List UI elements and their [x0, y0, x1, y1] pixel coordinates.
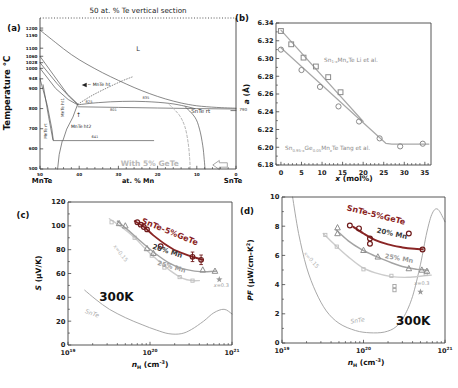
svg-text:x=0.3: x=0.3	[213, 282, 229, 288]
svg-text:60: 60	[56, 270, 66, 278]
svg-text:25% Mn: 25% Mn	[384, 252, 414, 265]
panel-c-chart: 101910201021120100806040200(c)S (μV/K)nH…	[17, 198, 240, 370]
svg-text:~ MnTe ht: ~ MnTe ht	[87, 82, 110, 87]
svg-text:2: 2	[275, 310, 280, 318]
svg-text:10: 10	[270, 193, 280, 201]
svg-text:35: 35	[420, 169, 430, 177]
svg-text:nH (cm-3): nH (cm-3)	[348, 357, 385, 368]
svg-text:↑: ↑	[76, 111, 81, 118]
series-fan-1	[40, 56, 78, 104]
svg-text:300K: 300K	[396, 314, 431, 328]
svg-text:x=0.3: x=0.3	[413, 280, 429, 286]
svg-text:5: 5	[299, 169, 304, 177]
svg-text:6.32: 6.32	[257, 37, 273, 45]
svg-text:790: 790	[239, 107, 247, 112]
svg-text:0: 0	[279, 169, 284, 177]
svg-text:20: 20	[155, 172, 161, 177]
svg-text:x=0.15: x=0.15	[112, 243, 130, 264]
svg-text:6.24: 6.24	[257, 108, 274, 116]
svg-text:835: 835	[142, 96, 149, 100]
svg-text:1060: 1060	[26, 54, 38, 59]
svg-text:Sn0.95-xGe0.05MnxTe Tang et al: Sn0.95-xGe0.05MnxTe Tang et al.	[285, 145, 370, 153]
svg-text:(c): (c)	[17, 210, 30, 220]
svg-text:Sn1-xMnxTe Li et al.: Sn1-xMnxTe Li et al.	[324, 57, 378, 65]
svg-text:6.18: 6.18	[257, 161, 274, 169]
svg-text:1200: 1200	[26, 26, 38, 31]
svg-text:641: 641	[91, 135, 98, 139]
svg-text:at. % Mn: at. % Mn	[122, 177, 154, 185]
svg-text:MnTe ht1: MnTe ht1	[60, 98, 65, 117]
svg-text:6.22: 6.22	[257, 126, 273, 134]
svg-text:6.30: 6.30	[257, 55, 274, 63]
svg-text:6: 6	[275, 252, 280, 260]
svg-text:PF (μW/cm-K2): PF (μW/cm-K2)	[245, 239, 255, 300]
svg-text:MnTe rt: MnTe rt	[43, 123, 48, 139]
svg-text:Temperature °C: Temperature °C	[2, 56, 12, 131]
svg-text:6.20: 6.20	[257, 144, 274, 152]
svg-text:(a): (a)	[7, 23, 21, 33]
svg-text:6.28: 6.28	[257, 73, 274, 81]
svg-text:1028: 1028	[26, 60, 38, 65]
svg-text:948: 948	[29, 76, 38, 81]
svg-text:4: 4	[275, 281, 280, 289]
panel-d-chart: 1019102010211086420(d)PF (μW/cm-K2)nH (c…	[240, 193, 452, 368]
svg-text:nH (cm-3): nH (cm-3)	[132, 359, 169, 370]
svg-text:300K: 300K	[99, 290, 134, 304]
svg-text:SnTe: SnTe	[224, 177, 243, 185]
svg-text:1190: 1190	[26, 33, 38, 38]
svg-text:30: 30	[115, 172, 121, 177]
svg-text:100: 100	[51, 222, 65, 230]
svg-text:40: 40	[76, 172, 82, 177]
panel-a-chart: 5040302010012001190110010601028100094890…	[2, 6, 247, 185]
svg-text:(b): (b)	[235, 13, 249, 23]
svg-text:20% Mn: 20% Mn	[376, 227, 408, 241]
svg-text:(d): (d)	[240, 206, 254, 216]
series-solvus	[185, 107, 205, 169]
svg-text:10: 10	[194, 172, 200, 177]
svg-text:80: 80	[56, 246, 66, 254]
svg-text:a (Å): a (Å)	[242, 84, 251, 104]
svg-text:600: 600	[29, 146, 38, 151]
figure: 5040302010012001190110010601028100094890…	[0, 0, 458, 388]
svg-text:1020: 1020	[142, 348, 157, 357]
four-panel-figure: 5040302010012001190110010601028100094890…	[0, 0, 458, 388]
svg-text:900: 900	[29, 86, 38, 91]
svg-text:800: 800	[29, 106, 38, 111]
panel-b-chart: 051015202530356.346.326.306.286.266.246.…	[235, 13, 431, 183]
svg-text:6.34: 6.34	[257, 19, 274, 27]
svg-text:1100: 1100	[26, 46, 38, 51]
svg-text:30: 30	[400, 169, 410, 177]
svg-text:50 at. % Te vertical section: 50 at. % Te vertical section	[89, 6, 186, 15]
svg-text:SnTe: SnTe	[350, 316, 365, 325]
svg-text:1021: 1021	[437, 346, 452, 355]
svg-text:801: 801	[110, 108, 117, 112]
svg-text:With 5% GeTe: With 5% GeTe	[121, 159, 179, 168]
svg-text:10: 10	[318, 169, 328, 177]
series-mn25-curve	[336, 230, 428, 270]
svg-text:0: 0	[61, 341, 66, 349]
svg-text:1020: 1020	[356, 346, 371, 355]
svg-text:25: 25	[379, 169, 389, 177]
svg-text:SnTe-5%GeTe: SnTe-5%GeTe	[346, 203, 407, 226]
svg-text:1000: 1000	[26, 66, 38, 71]
series-two-phase-left	[63, 104, 78, 140]
svg-text:SnTe: SnTe	[84, 307, 100, 319]
svg-text:MnTe: MnTe	[32, 177, 53, 185]
svg-text:120: 120	[51, 198, 65, 206]
svg-text:S (μV/K): S (μV/K)	[34, 256, 43, 291]
svg-text:L: L	[136, 45, 140, 53]
svg-text:8: 8	[275, 223, 280, 231]
series-below-641	[58, 141, 63, 169]
svg-text:6.26: 6.26	[257, 90, 274, 98]
svg-text:500: 500	[29, 166, 38, 171]
svg-text:20: 20	[56, 318, 66, 326]
svg-text:MnTe ht2: MnTe ht2	[71, 124, 92, 129]
svg-text:700: 700	[29, 126, 38, 131]
svg-text:SnTe rt: SnTe rt	[191, 108, 211, 114]
svg-text:825: 825	[86, 100, 93, 104]
svg-text:x (mol%): x (mol%)	[334, 174, 372, 183]
svg-text:40: 40	[56, 294, 66, 302]
svg-text:0: 0	[275, 339, 280, 347]
svg-text:1021: 1021	[224, 348, 239, 357]
